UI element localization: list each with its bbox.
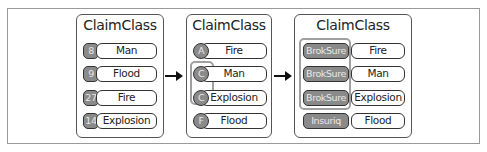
list-item: 8 Man [83, 43, 157, 59]
value-cell: Man [96, 43, 157, 59]
key-badge: BrokSure [303, 66, 349, 82]
panel-letter-keys: ClaimClass Fire A Man C Explosion C Floo… [186, 14, 272, 138]
value-cell: Fire [351, 43, 405, 59]
list-item: Flood F [193, 113, 267, 129]
list-item: Insuriq Flood [303, 113, 405, 129]
value-cell: Flood [96, 66, 157, 82]
value-cell: Explosion [351, 90, 405, 106]
list-item: BrokSure Fire [303, 43, 405, 59]
panel-title: ClaimClass [77, 17, 163, 33]
key-badge: F [193, 113, 209, 129]
key-badge: BrokSure [303, 90, 349, 106]
key-badge: C [193, 90, 209, 106]
panel-title: ClaimClass [187, 17, 271, 33]
list-item: BrokSure Explosion [303, 90, 405, 106]
key-badge: C [193, 66, 209, 82]
list-item: Fire A [193, 43, 267, 59]
list-item: 9 Flood [83, 66, 157, 82]
key-badge: BrokSure [303, 43, 349, 59]
value-cell: Man [351, 66, 405, 82]
key-badge: Insuriq [303, 113, 349, 129]
arrow-right-icon [165, 75, 181, 77]
list-item: Explosion C [193, 90, 267, 106]
value-cell: Fire [96, 90, 157, 106]
list-item: 27 Fire [83, 90, 157, 106]
value-cell: Man [201, 66, 267, 82]
value-cell: Explosion [96, 113, 157, 129]
list-item: BrokSure Man [303, 66, 405, 82]
value-cell: Flood [201, 113, 267, 129]
value-cell: Fire [201, 43, 267, 59]
list-item: 14 Explosion [83, 113, 157, 129]
arrow-right-icon [274, 75, 290, 77]
list-item: Man C [193, 66, 267, 82]
panel-title: ClaimClass [295, 17, 411, 33]
value-cell: Explosion [201, 90, 267, 106]
panel-integer-keys: ClaimClass 8 Man 9 Flood 27 Fire 14 Expl… [76, 14, 164, 138]
key-badge: A [193, 43, 209, 59]
value-cell: Flood [351, 113, 405, 129]
panel-broker-keys: ClaimClass BrokSure Fire BrokSure Man Br… [294, 14, 412, 138]
